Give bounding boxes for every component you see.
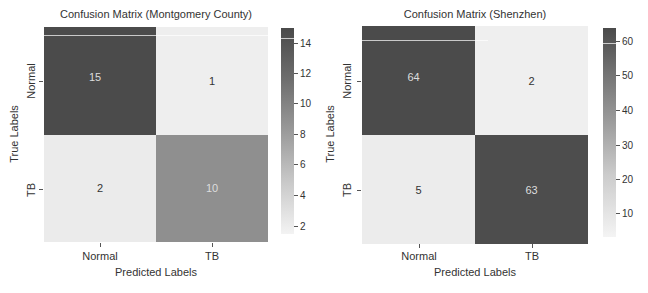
y-tick-label-tb: TB bbox=[25, 165, 37, 215]
colorbar bbox=[603, 28, 616, 237]
y-tick-label-tb: TB bbox=[341, 165, 353, 215]
cell-tb-tb: 63 bbox=[475, 135, 588, 244]
colorbar-tick: 50 bbox=[616, 70, 633, 81]
colorbar bbox=[281, 28, 294, 234]
cell-normal-tb: 1 bbox=[156, 27, 268, 135]
cell-normal-tb: 2 bbox=[475, 26, 588, 135]
cell-normal-normal: 15 bbox=[44, 27, 156, 135]
cell-normal-normal: 64 bbox=[362, 26, 475, 135]
scan-line bbox=[362, 40, 488, 41]
x-tick-label-normal: Normal bbox=[75, 250, 125, 262]
y-tick bbox=[357, 190, 361, 191]
colorbar-tick: 12 bbox=[294, 68, 311, 79]
y-tick-label-normal: Normal bbox=[25, 56, 37, 106]
cell-value: 10 bbox=[206, 182, 218, 194]
colorbar-tick: 2 bbox=[294, 221, 306, 232]
x-tick bbox=[419, 244, 420, 248]
y-axis-label: True Labels bbox=[8, 94, 20, 174]
scan-line bbox=[44, 35, 268, 36]
y-tick bbox=[357, 81, 361, 82]
cell-value: 1 bbox=[209, 75, 215, 87]
colorbar-tick: 10 bbox=[294, 98, 311, 109]
scan-line bbox=[603, 43, 616, 44]
colorbar-tick: 40 bbox=[616, 105, 633, 116]
y-tick bbox=[39, 81, 43, 82]
chart-title: Confusion Matrix (Montgomery County) bbox=[40, 8, 272, 20]
heatmap: 15 1 2 10 bbox=[44, 27, 268, 242]
x-axis-label: Predicted Labels bbox=[425, 266, 525, 278]
cell-tb-normal: 5 bbox=[362, 135, 475, 244]
cell-tb-normal: 2 bbox=[44, 135, 156, 243]
chart-shenzhen: Confusion Matrix (Shenzhen) True Labels … bbox=[324, 0, 648, 293]
cell-value: 5 bbox=[415, 184, 421, 196]
chart-montgomery: Confusion Matrix (Montgomery County) Tru… bbox=[0, 0, 324, 293]
y-axis-label: True Labels bbox=[324, 94, 336, 174]
colorbar-tick: 6 bbox=[294, 159, 306, 170]
chart-title: Confusion Matrix (Shenzhen) bbox=[362, 8, 588, 20]
colorbar-tick: 14 bbox=[294, 38, 311, 49]
x-tick bbox=[532, 244, 533, 248]
x-tick-label-tb: TB bbox=[507, 250, 557, 262]
y-tick bbox=[39, 189, 43, 190]
scan-line bbox=[268, 38, 294, 39]
y-tick-label-normal: Normal bbox=[341, 56, 353, 106]
heatmap: 64 2 5 63 bbox=[362, 26, 588, 244]
colorbar-tick: 4 bbox=[294, 190, 306, 201]
x-axis-label: Predicted Labels bbox=[106, 266, 206, 278]
cell-value: 64 bbox=[407, 71, 419, 83]
cell-tb-tb: 10 bbox=[156, 135, 268, 243]
cell-value: 2 bbox=[97, 182, 103, 194]
cell-value: 2 bbox=[528, 75, 534, 87]
colorbar-tick: 10 bbox=[616, 208, 633, 219]
x-tick-label-normal: Normal bbox=[394, 250, 444, 262]
colorbar-tick: 20 bbox=[616, 174, 633, 185]
x-tick bbox=[212, 243, 213, 247]
colorbar-tick: 60 bbox=[616, 36, 633, 47]
colorbar-tick: 30 bbox=[616, 140, 633, 151]
x-tick bbox=[100, 243, 101, 247]
x-tick-label-tb: TB bbox=[187, 250, 237, 262]
cell-value: 15 bbox=[89, 71, 101, 83]
colorbar-tick: 8 bbox=[294, 129, 306, 140]
cell-value: 63 bbox=[525, 184, 537, 196]
